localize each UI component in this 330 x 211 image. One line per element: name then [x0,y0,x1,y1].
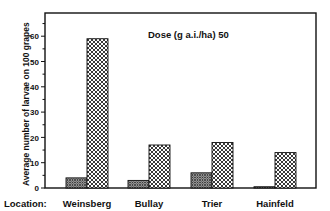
bar-chart: 0102030405060 WeinsbergBullayTrierHainfe… [0,0,330,211]
y-tick-label: 20 [30,134,39,143]
x-tick-label: Hainfeld [256,198,294,209]
y-tick-label: 50 [30,58,39,67]
chart-title: Dose (g a.i./ha) 50 [148,29,229,40]
y-axis: 0102030405060 [30,24,45,194]
x-axis-label: Location: [4,198,47,209]
bar [66,178,87,188]
x-tick-label: Weinsberg [63,198,112,209]
y-tick-label: 0 [35,184,40,193]
x-tick-label: Bullay [135,198,164,209]
y-axis-label: Average number of larvae on 100 grapes [21,22,31,186]
bar [275,153,296,188]
bars [66,39,296,188]
bar [128,180,149,188]
bar [191,173,212,188]
bar [149,145,170,188]
y-tick-label: 60 [30,32,39,41]
y-tick-label: 40 [30,83,39,92]
x-tick-label: Trier [202,198,223,209]
bar [254,187,275,188]
bar [87,39,108,188]
y-tick-label: 10 [30,159,39,168]
y-tick-label: 30 [30,108,39,117]
bar [212,142,233,188]
x-axis: WeinsbergBullayTrierHainfeld [63,198,294,209]
